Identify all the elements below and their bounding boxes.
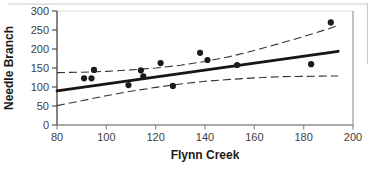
data-point [308,61,314,67]
data-point [158,60,164,66]
y-tick-label: 150 [31,62,49,74]
data-point [170,83,176,89]
chart-canvas: 05010015020025030080100120140160180200 N… [0,0,376,170]
plot-area: 05010015020025030080100120140160180200 [8,4,368,143]
data-point [138,67,144,73]
data-point [125,82,131,88]
y-tick-label: 50 [37,100,49,112]
y-tick-label: 0 [43,119,49,131]
x-tick-label: 140 [196,131,214,143]
data-point [88,75,94,81]
y-axis-title: Needle Branch [2,26,16,110]
x-axis-title: Flynn Creek [171,148,240,162]
x-tick-label: 100 [97,131,115,143]
data-point [234,62,240,68]
confidence-band-lower [57,76,338,106]
confidence-band-upper [57,25,338,72]
data-point [91,67,97,73]
scatter-plot-figure: 05010015020025030080100120140160180200 N… [0,0,376,170]
x-tick-label: 80 [51,131,63,143]
x-tick-label: 160 [245,131,263,143]
y-tick-label: 250 [31,24,49,36]
x-tick-label: 200 [344,131,362,143]
data-point [328,19,334,25]
x-tick-label: 180 [294,131,312,143]
data-point [204,57,210,63]
data-point [197,50,203,56]
y-tick-label: 200 [31,43,49,55]
x-tick-label: 120 [146,131,164,143]
y-tick-label: 100 [31,81,49,93]
regression-line [57,51,338,91]
data-point [140,73,146,79]
data-point [81,75,87,81]
y-tick-label: 300 [31,5,49,17]
